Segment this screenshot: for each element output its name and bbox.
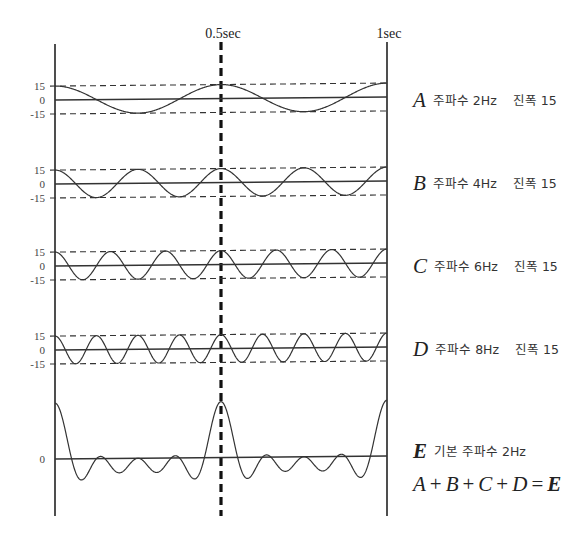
legend-row-c: C주파수 6Hz진폭 15 [413, 256, 558, 277]
amplitude-label: 진폭 15 [513, 176, 557, 191]
wave-letter: E [413, 439, 427, 463]
term-a: A [413, 472, 426, 496]
y-tick-label: 15 [34, 80, 46, 92]
y-tick-label: -15 [30, 274, 45, 286]
wave-row-c: 150-15 [30, 246, 387, 286]
y-tick-label: 0 [40, 453, 46, 465]
wave-letter: D [413, 337, 428, 361]
frequency-label: 주파수 8Hz [435, 342, 499, 357]
y-tick-label: 0 [40, 260, 46, 272]
wave-letter: A [413, 88, 426, 112]
wave-row-d: 150-15 [30, 330, 387, 370]
one-second-label: 1sec [377, 26, 402, 41]
y-tick-label: 15 [34, 330, 46, 342]
y-tick-label: 15 [34, 164, 46, 176]
legend-row-a: A주파수 2Hz진폭 15 [413, 90, 557, 111]
equals-sign: = [531, 472, 543, 496]
amplitude-label: 진폭 15 [513, 93, 557, 108]
term-d: D [512, 472, 527, 496]
wave-row-a: 150-15 [30, 80, 387, 120]
amplitude-label: 진폭 15 [515, 342, 559, 357]
frequency-label: 주파수 6Hz [434, 259, 498, 274]
y-tick-label: 0 [40, 94, 46, 106]
y-tick-label: 15 [34, 246, 46, 258]
wave-letter: B [413, 171, 426, 195]
term-b: B [446, 472, 459, 496]
term-e: E [547, 472, 561, 496]
y-tick-label: -15 [30, 358, 45, 370]
term-c: C [478, 472, 492, 496]
amplitude-label: 진폭 15 [514, 259, 558, 274]
y-tick-label: 0 [40, 178, 46, 190]
wave-letter: C [413, 254, 427, 278]
frequency-label: 주파수 2Hz [433, 93, 497, 108]
zero-line [55, 181, 387, 184]
wave-row-b: 150-15 [30, 164, 387, 204]
minus-amplitude-line [50, 111, 387, 114]
half-second-label: 0.5sec [205, 26, 240, 41]
plus-sign: + [463, 472, 475, 496]
fundamental-frequency-label: 기본 주파수 2Hz [434, 444, 526, 459]
y-tick-label: 0 [40, 344, 46, 356]
sum-equation: A+B+C+D=E [413, 472, 561, 497]
plus-sign: + [430, 472, 442, 496]
plus-sign: + [496, 472, 508, 496]
component-waves: 150-15150-15150-15150-15 [30, 80, 387, 370]
minus-amplitude-line [50, 277, 387, 280]
legend-row-b: B주파수 4Hz진폭 15 [413, 173, 557, 194]
minus-amplitude-line [50, 361, 387, 364]
y-tick-label: -15 [30, 108, 45, 120]
legend-row-d: D주파수 8Hz진폭 15 [413, 339, 559, 360]
sum-wave: 0 [40, 400, 388, 480]
legend-row-e: E기본 주파수 2Hz [413, 441, 526, 462]
frequency-label: 주파수 4Hz [433, 176, 497, 191]
y-tick-label: -15 [30, 192, 45, 204]
